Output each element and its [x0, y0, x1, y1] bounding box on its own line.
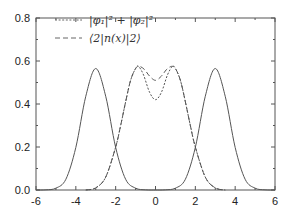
x-axis-tick-labels: -6-4-20246: [31, 195, 278, 207]
x-tick-label: -4: [71, 195, 81, 207]
y-tick-label: 0.2: [15, 141, 30, 153]
y-tick-label: 0.4: [15, 98, 30, 110]
y-tick-label: 0.6: [15, 55, 30, 67]
curve-solid-1: [156, 69, 276, 190]
x-tick-label: 4: [232, 195, 238, 207]
density-chart: -6-4-20246 0.00.20.40.60.8 |φ₁|² + |φ₂|²…: [0, 0, 288, 213]
x-tick-label: -2: [111, 195, 121, 207]
legend-label-dotted: |φ₁|² + |φ₂|²: [89, 14, 153, 28]
curves: [36, 66, 275, 190]
curve-dotted-2: [86, 66, 225, 190]
y-tick-label: 0.0: [15, 184, 30, 196]
y-tick-label: 0.8: [15, 12, 30, 24]
legend-label-dashed: ⟨2|n(x)|2⟩: [89, 32, 141, 46]
x-tick-label: 6: [272, 195, 278, 207]
x-tick-label: 0: [152, 195, 158, 207]
curve-solid-0: [36, 69, 156, 190]
y-axis-tick-labels: 0.00.20.40.60.8: [15, 12, 30, 196]
x-tick-label: 2: [192, 195, 198, 207]
x-tick-label: -6: [31, 195, 41, 207]
curve-dashed-3: [86, 66, 225, 190]
legend: |φ₁|² + |φ₂|² ⟨2|n(x)|2⟩: [55, 14, 153, 46]
